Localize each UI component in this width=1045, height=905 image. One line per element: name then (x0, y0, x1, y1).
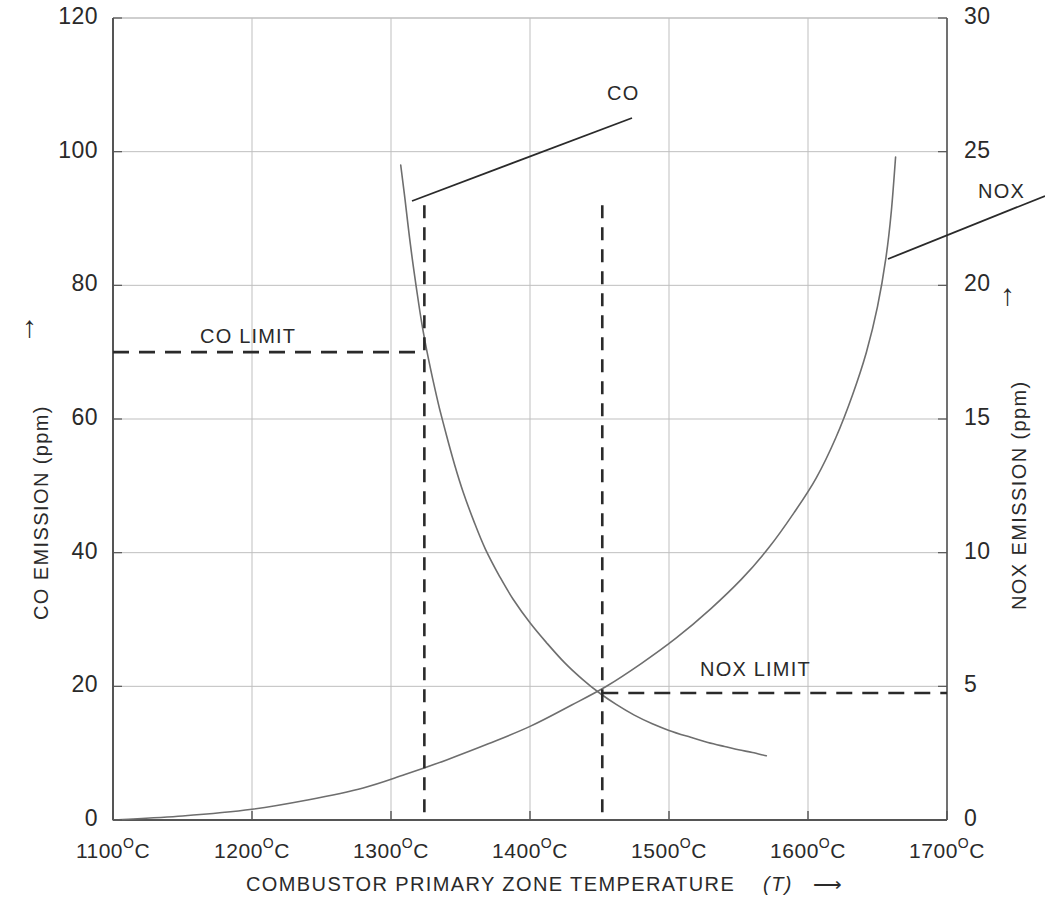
nox-axis-arrow-icon: ↑ (1000, 278, 1015, 312)
x-axis-title-symbol: (T) (763, 873, 793, 895)
y-tick-label-right: 5 (964, 671, 977, 698)
y-tick-label-left: 40 (0, 538, 98, 565)
nox-limit-label: NOX LIMIT (700, 658, 811, 681)
x-tick-label: 1500OC (614, 837, 724, 863)
co-label-leader-line (412, 118, 632, 201)
x-axis-title: COMBUSTOR PRIMARY ZONE TEMPERATURE (T) ⟶ (246, 872, 843, 896)
x-tick-label: 1300OC (336, 837, 446, 863)
x-tick-label: 1600OC (753, 837, 863, 863)
y-tick-label-right: 20 (964, 270, 991, 297)
y-tick-label-left: 80 (0, 270, 98, 297)
x-tick-label: 1400OC (475, 837, 585, 863)
co-limit-label: CO LIMIT (200, 325, 296, 348)
x-tick-label: 1200OC (197, 837, 307, 863)
y-tick-label-right: 15 (964, 404, 991, 431)
x-axis-title-text: COMBUSTOR PRIMARY ZONE TEMPERATURE (246, 873, 735, 895)
x-axis-title-arrow-icon: ⟶ (813, 873, 843, 895)
y-tick-label-right: 0 (964, 805, 977, 832)
series-curve-nox (113, 157, 896, 820)
nox-series-label: NOX (978, 180, 1025, 203)
chart-figure: ↑ CO EMISSION (ppm) ↑ NOX EMISSION (ppm)… (0, 0, 1045, 905)
y-tick-label-left: 20 (0, 671, 98, 698)
y-tick-label-right: 10 (964, 538, 991, 565)
y-tick-label-right: 25 (964, 137, 991, 164)
co-axis-arrow-icon: ↑ (22, 310, 37, 344)
y-tick-label-left: 60 (0, 404, 98, 431)
nox-label-leader-line (888, 196, 1045, 259)
chart-canvas (0, 0, 1045, 905)
y-tick-label-left: 100 (0, 137, 98, 164)
x-tick-label: 1700OC (892, 837, 1002, 863)
nox-axis-title: NOX EMISSION (ppm) (1008, 380, 1031, 610)
co-axis-title: CO EMISSION (ppm) (30, 405, 53, 620)
y-tick-label-left: 120 (0, 3, 98, 30)
y-tick-label-left: 0 (0, 805, 98, 832)
co-series-label: CO (607, 82, 639, 105)
y-tick-label-right: 30 (964, 3, 991, 30)
x-tick-label: 1100OC (58, 837, 168, 863)
